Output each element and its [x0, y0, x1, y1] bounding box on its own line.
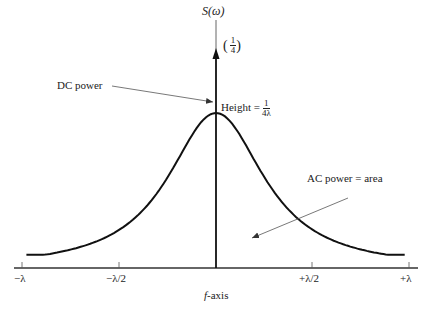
tick-label-text: +λ/2: [299, 272, 319, 284]
ac-power-text: AC power = area: [307, 172, 383, 184]
impulse-arrowhead-icon: [213, 48, 220, 59]
impulse-den: 4: [231, 46, 236, 55]
psd-diagram: [0, 0, 428, 310]
y-axis-label-text: S(ω): [202, 4, 224, 18]
dc-power-arrow: [112, 86, 213, 102]
tick-label-text: +λ: [400, 272, 412, 284]
y-axis-label: S(ω): [202, 4, 224, 19]
height-den: 4λ: [262, 109, 271, 118]
tick-label-minus-lambda: −λ: [14, 272, 26, 284]
paren-close: ): [236, 38, 241, 53]
ac-power-label: AC power = area: [307, 172, 383, 184]
tick-label-text: −λ: [14, 272, 26, 284]
tick-label-minus-half-lambda: −λ/2: [106, 272, 126, 284]
dc-power-label: DC power: [57, 79, 103, 91]
height-label: Height =14λ: [221, 99, 271, 118]
tick-label-plus-half-lambda: +λ/2: [299, 272, 319, 284]
impulse-weight-label: (14): [223, 36, 241, 55]
paren-open: (: [223, 38, 228, 53]
tick-label-plus-lambda: +λ: [400, 272, 412, 284]
ac-power-arrow: [252, 198, 348, 238]
x-axis-suffix: -axis: [207, 289, 228, 301]
x-axis-label: f-axis: [204, 289, 228, 301]
dc-power-text: DC power: [57, 79, 103, 91]
tick-label-text: −λ/2: [106, 272, 126, 284]
height-text: Height =: [221, 101, 260, 113]
height-fraction: 14λ: [262, 99, 271, 118]
